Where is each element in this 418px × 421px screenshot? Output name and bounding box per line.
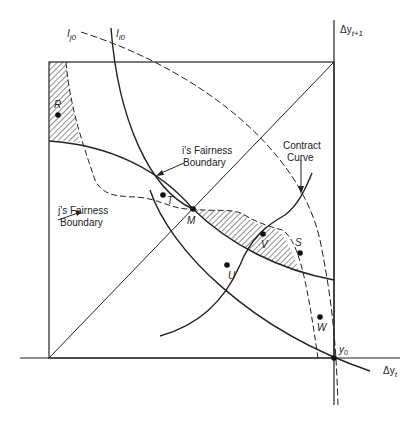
point-S xyxy=(297,250,303,256)
label-T: T xyxy=(167,195,174,206)
point-U xyxy=(224,262,230,268)
i-fairness-arrowhead xyxy=(156,170,164,176)
label-U: U xyxy=(228,270,236,281)
label-M: M xyxy=(187,215,196,226)
point-R xyxy=(55,112,61,118)
point-V xyxy=(260,231,266,237)
edgeworth-box-diagram: R T M V S U W Ij0 Ii0 i's Fairness Bound… xyxy=(0,0,418,421)
label-ij0: Ij0 xyxy=(67,28,77,42)
label-j-fairness-line1: j's Fairness xyxy=(57,205,108,216)
label-S: S xyxy=(295,237,302,248)
label-contract-line2: Curve xyxy=(287,152,314,163)
label-W: W xyxy=(317,322,328,333)
label-i-fairness-line1: i's Fairness xyxy=(182,145,232,156)
label-j-fairness-line2: Boundary xyxy=(60,217,103,228)
point-T xyxy=(160,192,166,198)
origin-label: y0 xyxy=(338,344,348,356)
point-W xyxy=(317,314,323,320)
label-contract-line1: Contract xyxy=(283,140,321,151)
label-i-fairness-line2: Boundary xyxy=(183,157,226,168)
point-y0 xyxy=(331,355,337,361)
label-R: R xyxy=(54,99,61,110)
point-M xyxy=(190,206,196,212)
label-ii0: Ii0 xyxy=(116,28,126,42)
x-axis-label: Δyt xyxy=(383,365,398,379)
hatched-region-center xyxy=(193,209,300,273)
y-axis-label: Δyt+1 xyxy=(340,24,363,38)
